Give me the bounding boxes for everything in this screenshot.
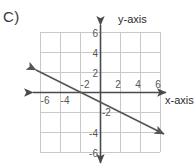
tick-label-y-4: 4 [92, 48, 98, 59]
y-negative-tick-labels: -2 [102, 107, 111, 118]
y-negative-tick-labels-left: -4 -6 [89, 128, 98, 159]
x-axis-label: x-axis [165, 94, 194, 106]
y-axis-label: y-axis [118, 13, 147, 25]
tick-label-x--6: -6 [41, 95, 50, 106]
tick-label-y-6: 6 [92, 28, 98, 39]
x-positive-tick-labels: 2 4 6 [115, 79, 161, 90]
tick-label-y-2: 2 [92, 68, 98, 79]
choice-label: C) [3, 8, 19, 25]
tick-label-x-2: 2 [115, 79, 121, 90]
tick-label-y--2: -2 [102, 107, 111, 118]
tick-label-x-4: 4 [135, 79, 141, 90]
tick-label-x-6: 6 [155, 79, 161, 90]
tick-label-y--4: -4 [89, 128, 98, 139]
y-positive-tick-labels: 6 4 2 [92, 28, 98, 79]
tick-label-x--2: -2 [81, 79, 90, 90]
coordinate-plane-figure: C) y-axis x-axis [0, 0, 196, 166]
graph-svg: -6 -4 -2 2 4 6 6 4 2 -2 -4 -6 [0, 0, 196, 166]
tick-label-y--6: -6 [89, 148, 98, 159]
tick-label-x--4: -4 [61, 95, 70, 106]
